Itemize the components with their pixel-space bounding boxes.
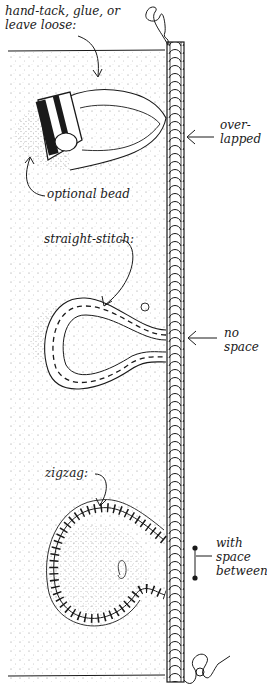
illustration: hand-tack, glue, or leave loose: optiona… — [0, 0, 267, 695]
overlapped-label: over- lapped — [220, 118, 261, 146]
with-space-between-label: with space between — [216, 536, 267, 578]
zigzag-label: zigzag: — [45, 466, 88, 480]
top-note-label: hand-tack, glue, or leave loose: — [5, 4, 120, 32]
spacing-marker — [192, 545, 212, 580]
straight-stitch-label: straight-stitch: — [44, 232, 134, 246]
no-space-label: no space — [224, 326, 259, 354]
optional-bead-label: optional bead — [47, 187, 130, 201]
